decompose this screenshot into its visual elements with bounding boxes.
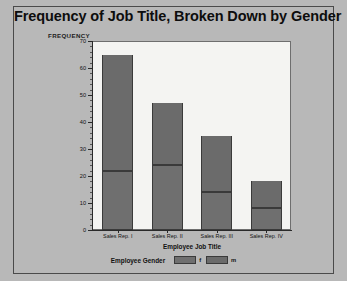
bar-segment-f[interactable] [251,208,282,230]
x-category-label: Sales Rep. II [143,233,193,239]
y-tick-minor [90,198,92,199]
legend-item-f: f [174,256,201,264]
y-tick-major [88,122,92,123]
bar-series-layer [93,41,291,230]
y-tick-major [88,203,92,204]
chart-screenshot: Frequency of Job Title, Broken Down by G… [0,0,347,281]
y-tick-minor [90,133,92,134]
bar-segment-m[interactable] [251,181,282,208]
y-tick-minor [90,111,92,112]
bar-group[interactable] [251,181,282,230]
legend-title: Employee Gender [111,257,165,264]
y-tick-minor [90,117,92,118]
y-tick-minor [90,84,92,85]
x-category-label: Sales Rep. III [192,233,242,239]
y-tick-minor [90,46,92,47]
bar-segment-m[interactable] [152,103,183,165]
y-tick-minor [90,52,92,53]
y-tick-minor [90,154,92,155]
y-tick-minor [90,127,92,128]
x-category-label: Sales Rep. IV [242,233,292,239]
y-tick-minor [90,192,92,193]
bar-segment-m[interactable] [102,55,133,171]
y-tick-label: 10 [64,200,86,206]
y-tick-major [88,230,92,231]
y-tick-minor [90,100,92,101]
bar-group[interactable] [102,55,133,231]
y-tick-minor [90,219,92,220]
y-tick-minor [90,73,92,74]
bar-segment-f[interactable] [152,165,183,230]
bar-segment-m[interactable] [201,136,232,193]
y-tick-major [88,68,92,69]
y-tick-major [88,176,92,177]
y-tick-major [88,149,92,150]
y-tick-minor [90,171,92,172]
y-tick-minor [90,144,92,145]
y-tick-label: 30 [64,146,86,152]
y-tick-minor [90,57,92,58]
legend-item-m: m [206,256,236,264]
bar-segment-f[interactable] [201,192,232,230]
y-tick-label: 70 [64,38,86,44]
bar-group[interactable] [152,103,183,230]
y-tick-minor [90,63,92,64]
y-tick-label: 60 [64,65,86,71]
y-tick-label: 50 [64,92,86,98]
y-tick-label: 0 [64,227,86,233]
bar-group[interactable] [201,136,232,231]
y-tick-minor [90,106,92,107]
y-tick-minor [90,165,92,166]
x-axis-title: Employee Job Title [93,243,291,250]
y-tick-minor [90,214,92,215]
y-tick-minor [90,79,92,80]
legend-swatch-f [174,256,196,264]
y-tick-minor [90,225,92,226]
legend-label-m: m [231,257,236,263]
chart-title: Frequency of Job Title, Broken Down by G… [14,8,333,24]
y-tick-label: 40 [64,119,86,125]
legend-label-f: f [199,257,201,263]
y-tick-minor [90,90,92,91]
y-tick-major [88,95,92,96]
y-tick-minor [90,208,92,209]
y-tick-minor [90,187,92,188]
y-tick-major [88,41,92,42]
bar-segment-f[interactable] [102,171,133,230]
y-tick-minor [90,181,92,182]
x-category-label: Sales Rep. I [93,233,143,239]
x-axis-line [92,230,292,231]
legend-swatch-m [206,256,228,264]
y-tick-minor [90,160,92,161]
y-tick-label: 20 [64,173,86,179]
chart-legend: Employee Gender f m [14,256,333,264]
y-tick-minor [90,138,92,139]
